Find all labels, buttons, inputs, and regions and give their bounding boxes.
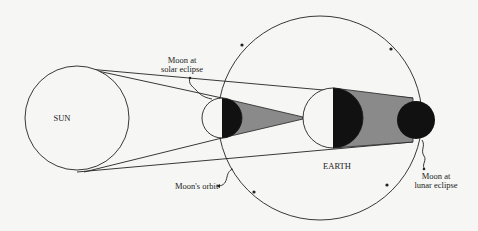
orbit-label: Moon's orbit	[175, 181, 219, 191]
eclipse-diagram: SUN EARTH Moon at solar eclipse Moon at …	[0, 0, 478, 231]
moon-solar-label-line2: solar eclipse	[161, 64, 203, 74]
moon-solar-pointer	[189, 77, 212, 99]
pointer-dot-icon	[189, 77, 192, 80]
orbit-arrow-icon	[240, 43, 243, 46]
sun-label: SUN	[53, 113, 70, 123]
orbit-arrow-icon	[252, 190, 255, 193]
pointer-dot-icon	[423, 168, 426, 171]
sun-earth-tangent-bottom	[77, 142, 413, 172]
moon-lunar-pointer	[422, 140, 425, 168]
sun	[25, 66, 129, 170]
moon-lunar-eclipse	[397, 101, 435, 139]
moon-lunar-label-line2: lunar eclipse	[414, 180, 457, 190]
orbit-arrow-icon	[385, 183, 388, 186]
orbit-pointer	[218, 169, 233, 186]
earth-label: EARTH	[323, 161, 351, 171]
orbit-arrow-icon	[389, 47, 392, 50]
